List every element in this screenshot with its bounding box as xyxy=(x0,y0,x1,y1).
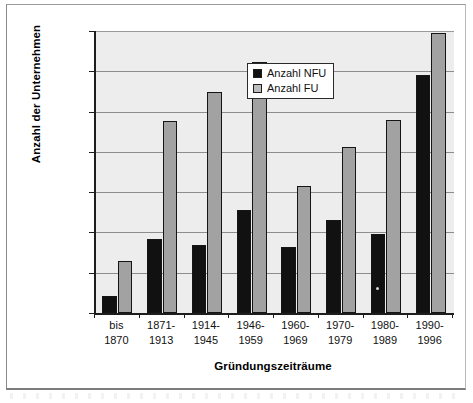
x-category-label: 1871-1913 xyxy=(139,318,184,358)
bar-chart: Anzahl der Unternehmen 05.00010.00015.00… xyxy=(0,0,473,403)
x-category-label: 1970-1979 xyxy=(318,318,363,358)
bar-fu xyxy=(431,33,446,313)
legend-label: Anzahl FU xyxy=(267,82,318,94)
x-category-label: 1946-1959 xyxy=(228,318,273,358)
x-category-label: bis1870 xyxy=(94,318,139,358)
x-category-label-line: 1871- xyxy=(139,318,184,333)
legend-item: Anzahl FU xyxy=(253,82,326,94)
bar-fu xyxy=(342,147,357,313)
x-category-label-line: bis xyxy=(94,318,139,333)
x-category-label-line: 1946- xyxy=(228,318,273,333)
x-category-label-line: 1945 xyxy=(184,333,229,348)
x-tick-mark xyxy=(452,313,453,318)
bar-fu xyxy=(118,261,133,313)
bar-fu xyxy=(207,92,222,313)
bar-fu xyxy=(252,62,267,313)
legend-swatch-nfu xyxy=(253,69,262,78)
bar-nfu xyxy=(416,75,431,313)
bar-nfu xyxy=(147,239,162,313)
x-category-label: 1914-1945 xyxy=(184,318,229,358)
legend-label: Anzahl NFU xyxy=(267,67,326,79)
bar-fu xyxy=(163,121,178,313)
bar-fu xyxy=(386,120,401,313)
bar-fu xyxy=(297,186,312,313)
x-category-label-line: 1970- xyxy=(318,318,363,333)
bar-nfu xyxy=(281,247,296,313)
bar-nfu xyxy=(326,220,341,313)
x-category-label-line: 1913 xyxy=(139,333,184,348)
x-category-label: 1980-1989 xyxy=(363,318,408,358)
x-category-label-line: 1979 xyxy=(318,333,363,348)
legend-item: Anzahl NFU xyxy=(253,67,326,79)
x-category-label-line: 1996 xyxy=(407,333,452,348)
x-category-label-line: 1969 xyxy=(273,333,318,348)
legend-swatch-fu xyxy=(253,84,262,93)
chart-legend: Anzahl NFUAnzahl FU xyxy=(247,63,334,99)
x-category-label-line: 1870 xyxy=(94,333,139,348)
scan-dust-speck xyxy=(376,287,379,290)
x-category-label-line: 1960- xyxy=(273,318,318,333)
x-category-label-line: 1914- xyxy=(184,318,229,333)
bar-nfu xyxy=(371,234,386,313)
x-category-label-line: 1990- xyxy=(407,318,452,333)
bar-nfu xyxy=(192,245,207,313)
bar-nfu xyxy=(102,296,117,313)
x-category-label-line: 1959 xyxy=(228,333,273,348)
x-category-label: 1960-1969 xyxy=(273,318,318,358)
x-category-label-line: 1980- xyxy=(363,318,408,333)
x-category-label-line: 1989 xyxy=(363,333,408,348)
bar-nfu xyxy=(237,210,252,313)
y-axis-title: Anzahl der Unternehmen xyxy=(30,0,42,199)
x-category-label: 1990-1996 xyxy=(407,318,452,358)
x-axis-labels: bis18701871-19131914-19451946-19591960-1… xyxy=(94,318,452,358)
x-axis-title: Gründungszeiträume xyxy=(94,360,452,372)
